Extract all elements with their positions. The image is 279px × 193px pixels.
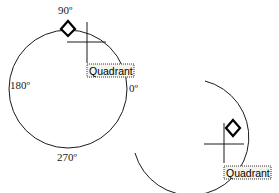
tooltip-text: Quadrant <box>89 65 133 77</box>
figure-1: 90º 180º 0º 270º Quadrant <box>9 4 139 163</box>
tooltip-text: Quadrant <box>226 167 270 179</box>
figure-2: Quadrant <box>135 81 271 193</box>
label-90: 90º <box>58 4 73 16</box>
quadrant-tooltip: Quadrant <box>87 64 134 77</box>
label-270: 270º <box>57 151 78 163</box>
quadrant-snap-diagram: 90º 180º 0º 270º Quadrant Quadrant <box>0 0 279 193</box>
label-0: 0º <box>129 82 139 94</box>
quadrant-tooltip: Quadrant <box>224 166 271 179</box>
quadrant-marker-icon <box>61 21 75 36</box>
label-180: 180º <box>10 79 31 91</box>
quadrant-marker-icon <box>226 120 240 136</box>
